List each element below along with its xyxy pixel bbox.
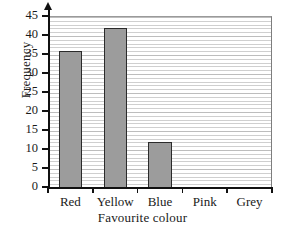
y-axis-arrow-icon <box>44 2 52 10</box>
y-axis-line <box>48 8 50 188</box>
y-tick <box>42 91 48 93</box>
y-tick <box>42 53 48 55</box>
x-tick <box>92 188 94 193</box>
y-tick-label: 40 <box>0 28 38 41</box>
y-tick-label: 10 <box>0 142 38 155</box>
gridline-minor <box>48 47 271 48</box>
gridline-major <box>48 17 271 18</box>
plot-area <box>48 16 272 188</box>
bar-chart: Frequency 051015202530354045 RedYellowBl… <box>0 0 285 230</box>
gridline-minor <box>48 25 271 26</box>
y-tick-label: 20 <box>0 104 38 117</box>
gridline-minor <box>48 40 271 41</box>
x-category-label: Grey <box>227 194 272 210</box>
x-category-label: Pink <box>182 194 227 210</box>
gridline-minor <box>48 44 271 45</box>
y-tick <box>42 167 48 169</box>
x-tick <box>271 188 273 193</box>
bar <box>104 28 127 188</box>
gridline-minor <box>48 28 271 29</box>
y-tick <box>42 15 48 17</box>
x-category-label: Yellow <box>93 194 138 210</box>
gridline-major <box>48 36 271 37</box>
y-tick-label: 0 <box>0 180 38 193</box>
y-tick-label: 35 <box>0 47 38 60</box>
bar <box>148 142 171 188</box>
x-axis-line <box>48 187 273 189</box>
x-tick <box>47 188 49 193</box>
y-tick-label: 15 <box>0 123 38 136</box>
gridline-minor <box>48 32 271 33</box>
y-tick-label: 30 <box>0 66 38 79</box>
x-tick <box>226 188 228 193</box>
y-tick <box>42 148 48 150</box>
bar <box>59 51 82 188</box>
y-tick-label: 25 <box>0 85 38 98</box>
y-tick <box>42 72 48 74</box>
y-tick-label: 45 <box>0 9 38 22</box>
y-tick <box>42 34 48 36</box>
x-tick <box>182 188 184 193</box>
y-tick-label: 5 <box>0 161 38 174</box>
x-axis-title: Favourite colour <box>0 210 285 226</box>
y-tick <box>42 129 48 131</box>
y-tick <box>42 110 48 112</box>
x-category-label: Blue <box>138 194 183 210</box>
gridline-minor <box>48 21 271 22</box>
x-category-label: Red <box>48 194 93 210</box>
x-tick <box>137 188 139 193</box>
